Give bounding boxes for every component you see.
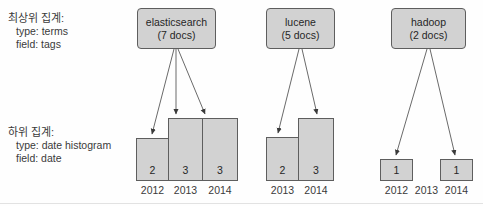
sub-aggregation-field: field: date [8,152,111,165]
footer-divider [0,203,483,204]
tick-lucene-2013: 2013 [266,184,299,196]
term-bucket-lucene-count: (5 docs) [282,29,320,42]
sub-aggregation-type: type: date histogram [8,139,111,152]
aggregation-diagram: 최상위 집계: type: terms field: tags 하위 집계: t… [0,0,483,206]
top-aggregation-annotation: 최상위 집계: type: terms field: tags [8,12,68,51]
tick-hadoop-2012: 2012 [380,184,413,196]
term-bucket-elasticsearch-label: elasticsearch [146,16,207,29]
term-bucket-lucene-label: lucene [285,16,316,29]
bar-elasticsearch-2012[interactable]: 2 [136,138,169,181]
bar-value: 2 [150,164,156,180]
bar-value: 1 [394,164,400,180]
term-bucket-hadoop-label: hadoop [411,16,446,29]
sub-aggregation-heading: 하위 집계: [8,126,111,139]
term-bucket-elasticsearch-count: (7 docs) [158,29,196,42]
bar-value: 1 [454,164,460,180]
tick-lucene-2014: 2014 [298,184,334,196]
bar-elasticsearch-2013[interactable]: 3 [168,118,203,181]
tick-hadoop-2014: 2014 [440,184,473,196]
bar-value: 3 [183,164,189,180]
top-aggregation-heading: 최상위 집계: [8,12,68,25]
bar-value: 3 [217,164,223,180]
bar-value: 2 [280,164,286,180]
term-bucket-elasticsearch[interactable]: elasticsearch (7 docs) [137,8,216,49]
bar-hadoop-2012[interactable]: 1 [380,159,413,181]
tick-elasticsearch-2012: 2012 [136,184,169,196]
tick-hadoop-2013: 2013 [412,184,441,196]
sub-aggregation-annotation: 하위 집계: type: date histogram field: date [8,126,111,165]
tick-elasticsearch-2013: 2013 [168,184,203,196]
bar-elasticsearch-2014[interactable]: 3 [202,118,238,181]
tick-elasticsearch-2014: 2014 [202,184,238,196]
top-aggregation-type: type: terms [8,25,68,38]
term-bucket-hadoop-count: (2 docs) [410,29,448,42]
top-aggregation-field: field: tags [8,38,68,51]
bar-lucene-2014[interactable]: 3 [298,118,334,181]
bar-hadoop-2014[interactable]: 1 [440,159,473,181]
term-bucket-lucene[interactable]: lucene (5 docs) [266,8,335,49]
bar-value: 3 [313,164,319,180]
bar-lucene-2013[interactable]: 2 [266,137,299,181]
term-bucket-hadoop[interactable]: hadoop (2 docs) [391,8,466,49]
